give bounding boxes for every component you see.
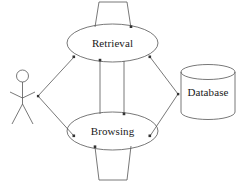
cylinder-top-ellipse: [181, 65, 235, 80]
use-case-retrieval-label: Retrieval: [67, 37, 158, 49]
marker-actor-junction: [37, 95, 39, 97]
actor-right-arm-line: [23, 92, 36, 98]
marker-retrieval-left: [73, 56, 76, 59]
diagram-canvas: Retrieval Browsing Database: [0, 0, 248, 184]
actor-left-leg-line: [12, 104, 23, 124]
marker-vertical-left-top: [99, 59, 102, 62]
database-label: Database: [181, 86, 235, 98]
marker-database-junction: [177, 93, 179, 95]
edge-actor-retrieval[interactable]: [38, 57, 74, 96]
marker-retrieval-loop-right: [130, 25, 133, 28]
actor-right-leg-line: [23, 104, 34, 124]
cylinder-bottom-arc: [181, 112, 235, 120]
marker-browsing-loop-left: [94, 145, 97, 148]
edge-retrieval-database[interactable]: [150, 57, 178, 94]
actor-left-arm-line: [10, 92, 23, 98]
actor-head-icon: [17, 70, 29, 82]
marker-vertical-right-bottom: [123, 113, 126, 116]
edge-browsing-self-loop[interactable]: [95, 146, 131, 180]
actor-stick-figure[interactable]: [10, 70, 35, 124]
use-case-browsing-label: Browsing: [67, 125, 158, 137]
marker-retrieval-right: [149, 56, 152, 59]
